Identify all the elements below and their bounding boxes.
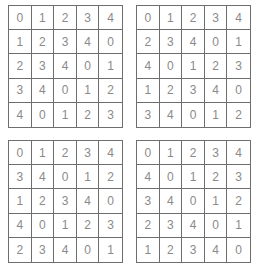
grid-cell: 1 [160, 6, 183, 30]
grid-cell: 0 [9, 141, 32, 165]
grid-cell: 3 [99, 214, 122, 238]
grid-cell: 4 [227, 6, 250, 30]
grid-cell: 1 [32, 141, 55, 165]
grid-cell: 0 [182, 189, 205, 213]
grid-cell: 0 [77, 54, 100, 78]
grid-cell: 1 [9, 189, 32, 213]
grid-cell: 0 [77, 238, 100, 262]
grid-cell: 2 [205, 54, 228, 78]
grid-cell: 0 [205, 30, 228, 54]
grid-cell: 4 [9, 103, 32, 127]
grid-cell: 2 [32, 189, 55, 213]
grid-cell: 3 [137, 103, 160, 127]
grid-cell: 3 [9, 165, 32, 189]
grid-cell: 4 [160, 189, 183, 213]
grid-cell: 0 [227, 238, 250, 262]
grid-cell: 4 [54, 54, 77, 78]
grid-cell: 2 [99, 165, 122, 189]
grid-cell: 1 [77, 79, 100, 103]
grid-cell: 1 [54, 214, 77, 238]
grid-cell: 3 [205, 6, 228, 30]
grid-cell: 3 [182, 79, 205, 103]
grid-cell: 4 [9, 214, 32, 238]
grid-cell: 2 [32, 30, 55, 54]
grid-cell: 2 [227, 189, 250, 213]
grid-cell: 2 [9, 54, 32, 78]
grid-cell: 3 [32, 54, 55, 78]
grid-cell: 2 [99, 79, 122, 103]
grid-cell: 1 [160, 141, 183, 165]
grid-cell: 3 [205, 141, 228, 165]
latin-squares-figure: 0123412340234013401240123 01234234014012… [0, 0, 259, 270]
grid-top-right: 0123423401401231234034012 [136, 5, 251, 128]
grid-cell: 0 [54, 79, 77, 103]
grid-cell: 0 [32, 214, 55, 238]
grid-cell: 0 [205, 214, 228, 238]
grid-cell: 2 [182, 6, 205, 30]
grid-cell: 2 [54, 141, 77, 165]
grid-cell: 2 [160, 238, 183, 262]
grid-cell: 3 [32, 238, 55, 262]
grid-cell: 3 [9, 79, 32, 103]
grid-cell: 1 [9, 30, 32, 54]
grid-cell: 1 [54, 103, 77, 127]
grid-bottom-right: 0123440123340122340112340 [136, 140, 251, 263]
grid-cell: 1 [99, 238, 122, 262]
grid-cell: 3 [54, 189, 77, 213]
grid-cell: 1 [137, 238, 160, 262]
grid-cell: 3 [137, 189, 160, 213]
grid-cell: 0 [160, 54, 183, 78]
grid-cell: 3 [99, 103, 122, 127]
grid-cell: 2 [77, 103, 100, 127]
grid-cell: 0 [99, 30, 122, 54]
grid-cell: 3 [160, 214, 183, 238]
grid-cell: 4 [54, 238, 77, 262]
grid-cell: 0 [227, 79, 250, 103]
grid-cell: 2 [9, 238, 32, 262]
grid-cell: 3 [54, 30, 77, 54]
grid-cell: 3 [182, 238, 205, 262]
grid-cell: 4 [99, 6, 122, 30]
grid-cell: 2 [54, 6, 77, 30]
grid-cell: 0 [9, 6, 32, 30]
grid-cell: 0 [137, 141, 160, 165]
grid-cell: 3 [77, 141, 100, 165]
grid-cell: 2 [182, 141, 205, 165]
grid-cell: 4 [137, 54, 160, 78]
grid-cell: 2 [137, 214, 160, 238]
grid-cell: 1 [32, 6, 55, 30]
grid-cell: 0 [182, 103, 205, 127]
grid-cell: 1 [137, 79, 160, 103]
grid-cell: 3 [160, 30, 183, 54]
grid-cell: 4 [99, 141, 122, 165]
grid-cell: 2 [227, 103, 250, 127]
grid-cell: 2 [205, 165, 228, 189]
grid-bottom-left: 0123434012123404012323401 [8, 140, 123, 263]
grid-cell: 1 [227, 214, 250, 238]
grid-cell: 0 [137, 6, 160, 30]
grid-cell: 4 [205, 79, 228, 103]
grid-cell: 4 [32, 79, 55, 103]
grid-cell: 1 [205, 103, 228, 127]
grid-cell: 1 [182, 165, 205, 189]
grid-cell: 4 [205, 238, 228, 262]
grid-top-left: 0123412340234013401240123 [8, 5, 123, 128]
grid-cell: 1 [227, 30, 250, 54]
grid-cell: 1 [99, 54, 122, 78]
grid-cell: 1 [182, 54, 205, 78]
grid-cell: 3 [227, 54, 250, 78]
grid-cell: 4 [227, 141, 250, 165]
grid-cell: 4 [77, 30, 100, 54]
grid-cell: 3 [227, 165, 250, 189]
grid-cell: 2 [160, 79, 183, 103]
grid-cell: 4 [32, 165, 55, 189]
grid-cell: 4 [182, 214, 205, 238]
grid-cell: 0 [32, 103, 55, 127]
grid-cell: 4 [160, 103, 183, 127]
grid-cell: 1 [77, 165, 100, 189]
grid-cell: 1 [205, 189, 228, 213]
grid-cell: 4 [137, 165, 160, 189]
grid-cell: 4 [77, 189, 100, 213]
grid-cell: 0 [99, 189, 122, 213]
grid-cell: 2 [137, 30, 160, 54]
